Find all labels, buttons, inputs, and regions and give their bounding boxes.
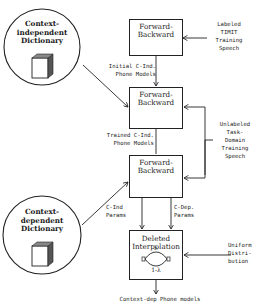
label-line: Trained C-Ind. [92, 131, 154, 139]
initial-models-label: Initial C-Ind. Phone Models [92, 62, 156, 78]
label-line: Labeled [207, 20, 251, 28]
label-line: Params [106, 211, 136, 219]
trained-models-label: Trained C-Ind. Phone Models [92, 131, 154, 147]
c-dep-params-label: C-Dep. Params [174, 203, 204, 219]
lambda-label: λ [150, 244, 162, 252]
label-line: C-Ind [106, 203, 136, 211]
label-line: Distri- [228, 249, 261, 257]
label-line: Params [174, 211, 204, 219]
label-line: bution [228, 257, 261, 265]
output-label: Context-dep Phone models [100, 295, 220, 303]
labeled-timit-label: Labeled TIMIT Training Speech [207, 20, 251, 52]
forward-backward-box-1: Forward- Backward [129, 19, 183, 56]
circle-title-line: Dictionary [12, 37, 72, 46]
unlabeled-speech-label: Unlabeled Task- Domain Training Speech [213, 120, 257, 160]
box-title-line: Backward [130, 99, 182, 107]
uniform-distribution-label: Uniform Distri- bution [228, 241, 261, 265]
label-line: Uniform [228, 241, 261, 249]
label-line: Task- [213, 128, 257, 136]
c-ind-params-label: C-Ind Params [106, 203, 136, 219]
label-line: TIMIT [207, 28, 251, 36]
context-dependent-dictionary: Context- dependent Dictionary [12, 208, 72, 234]
label-line: Training [213, 144, 257, 152]
label-line: Phone Models [92, 139, 154, 147]
context-independent-dictionary: Context- independent Dictionary [12, 20, 72, 46]
forward-backward-box-2: Forward- Backward [129, 87, 183, 129]
book-icon-top [32, 54, 53, 78]
label-line: Initial C-Ind. [92, 62, 156, 70]
label-line: Unlabeled [213, 120, 257, 128]
book-icon-bottom [32, 242, 53, 266]
box-title-line: Backward [130, 167, 182, 175]
one-minus-lambda-label: 1-λ [146, 266, 166, 274]
label-line: Speech [207, 44, 251, 52]
label-line: Training [207, 36, 251, 44]
circle-title-line: Dictionary [12, 225, 72, 234]
label-line: Phone Models [92, 70, 156, 78]
label-line: C-Dep. [174, 203, 204, 211]
forward-backward-box-3: Forward- Backward [129, 155, 183, 198]
label-line: Speech [213, 152, 257, 160]
box-title-line: Backward [130, 31, 182, 39]
label-line: Domain [213, 136, 257, 144]
